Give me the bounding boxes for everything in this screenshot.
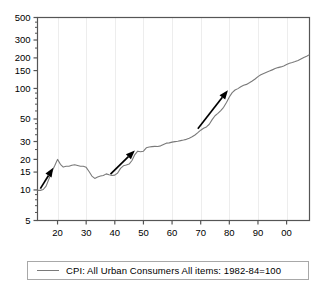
x-tick-label: 70 [195,227,206,238]
y-tick-label: 30 [20,136,31,147]
y-tick-label: 500 [15,12,31,23]
x-tick-label: 80 [224,227,235,238]
y-tick-label: 10 [20,184,31,195]
x-axis: 203040506070809000 [52,221,292,238]
y-tick-label: 20 [20,154,31,165]
y-tick-label: 200 [15,52,31,63]
legend-line-swatch [37,270,59,271]
y-tick-label: 100 [15,83,31,94]
y-tick-label: 300 [15,34,31,45]
x-tick-label: 50 [138,227,149,238]
plot-background [38,18,310,221]
legend-entry-label: CPI: All Urban Consumers All items: 1982… [66,265,281,276]
x-tick-label: 20 [52,227,63,238]
y-tick-label: 5 [25,215,30,226]
x-tick-label: 00 [281,227,292,238]
y-tick-label: 50 [20,113,31,124]
figure-container: 51015203050100150200300500 2030405060708… [0,0,331,291]
y-axis: 51015203050100150200300500 [15,12,38,226]
x-tick-label: 90 [253,227,264,238]
y-tick-label: 150 [15,65,31,76]
legend: CPI: All Urban Consumers All items: 1982… [27,261,309,280]
x-tick-label: 60 [167,227,178,238]
y-tick-label: 15 [20,166,31,177]
cpi-log-line-chart: 51015203050100150200300500 2030405060708… [0,0,331,291]
x-tick-label: 30 [81,227,92,238]
x-tick-label: 40 [110,227,121,238]
